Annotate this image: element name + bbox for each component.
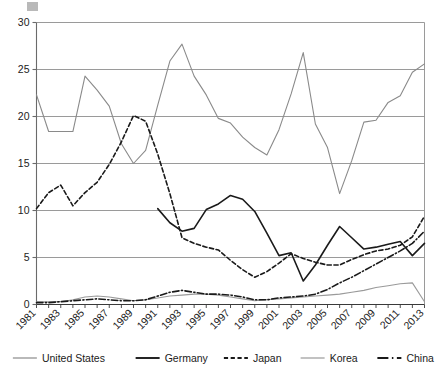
y-tick-label: 20 — [18, 110, 30, 122]
y-tick-label: 10 — [18, 204, 30, 216]
legend-label: China — [406, 352, 434, 364]
y-tick-label: 30 — [18, 16, 30, 28]
legend-label: Korea — [330, 352, 358, 364]
line-chart: 051015202530 198119831985198719891991199… — [0, 0, 440, 378]
chart-container: 051015202530 198119831985198719891991199… — [0, 0, 440, 378]
legend-label: Japan — [253, 352, 282, 364]
legend-label: United States — [42, 352, 105, 364]
y-tick-label: 15 — [18, 157, 30, 169]
legend-label: Germany — [165, 352, 209, 364]
y-tick-label: 5 — [24, 251, 30, 263]
corner-marker-icon — [27, 2, 38, 11]
y-tick-label: 25 — [18, 63, 30, 75]
